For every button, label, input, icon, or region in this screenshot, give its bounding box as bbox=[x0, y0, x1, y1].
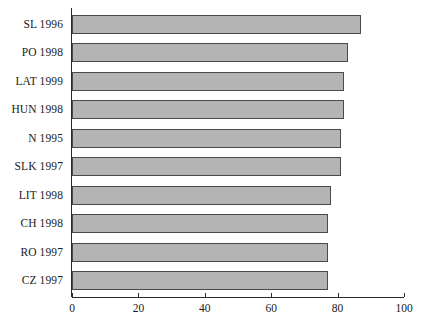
bars-group bbox=[72, 10, 404, 295]
x-axis-tick-label: 20 bbox=[133, 303, 145, 315]
bar bbox=[72, 100, 344, 119]
bar bbox=[72, 186, 331, 205]
bar-chart: SL 1996PO 1998LAT 1999HUN 1998N 1995SLK … bbox=[0, 0, 436, 330]
bar bbox=[72, 43, 348, 62]
x-axis-tick-label: 100 bbox=[395, 303, 412, 315]
category-label: SLK 1997 bbox=[0, 153, 68, 182]
x-axis-tick bbox=[205, 293, 206, 297]
bar-slot bbox=[72, 124, 404, 153]
clipped-caption bbox=[8, 322, 428, 330]
bar bbox=[72, 271, 328, 290]
bar-slot bbox=[72, 67, 404, 96]
category-label: LIT 1998 bbox=[0, 181, 68, 210]
x-axis-tick bbox=[271, 293, 272, 297]
x-axis-tick-label: 0 bbox=[69, 303, 75, 315]
x-axis: 020406080100 bbox=[72, 297, 404, 298]
bar bbox=[72, 15, 361, 34]
x-axis-tick bbox=[404, 293, 405, 297]
category-label: N 1995 bbox=[0, 124, 68, 153]
bar-slot bbox=[72, 153, 404, 182]
x-axis-tick bbox=[338, 293, 339, 297]
category-label: LAT 1999 bbox=[0, 67, 68, 96]
bar bbox=[72, 243, 328, 262]
x-axis-tick bbox=[138, 293, 139, 297]
bar-slot bbox=[72, 96, 404, 125]
bar bbox=[72, 157, 341, 176]
bar bbox=[72, 129, 341, 148]
bar-slot bbox=[72, 39, 404, 68]
bar-slot bbox=[72, 210, 404, 239]
x-axis-tick-label: 40 bbox=[199, 303, 211, 315]
category-label: HUN 1998 bbox=[0, 96, 68, 125]
category-axis-labels: SL 1996PO 1998LAT 1999HUN 1998N 1995SLK … bbox=[0, 10, 68, 295]
bar bbox=[72, 72, 344, 91]
category-label: PO 1998 bbox=[0, 39, 68, 68]
category-label: CH 1998 bbox=[0, 210, 68, 239]
x-axis-tick-label: 60 bbox=[265, 303, 277, 315]
plot-area bbox=[72, 10, 404, 295]
bar-slot bbox=[72, 238, 404, 267]
bar-slot bbox=[72, 267, 404, 296]
x-axis-tick-label: 80 bbox=[332, 303, 344, 315]
x-axis-tick bbox=[72, 293, 73, 297]
category-label: SL 1996 bbox=[0, 10, 68, 39]
category-label: CZ 1997 bbox=[0, 267, 68, 296]
bar bbox=[72, 214, 328, 233]
bar-slot bbox=[72, 181, 404, 210]
bar-slot bbox=[72, 10, 404, 39]
category-label: RO 1997 bbox=[0, 238, 68, 267]
